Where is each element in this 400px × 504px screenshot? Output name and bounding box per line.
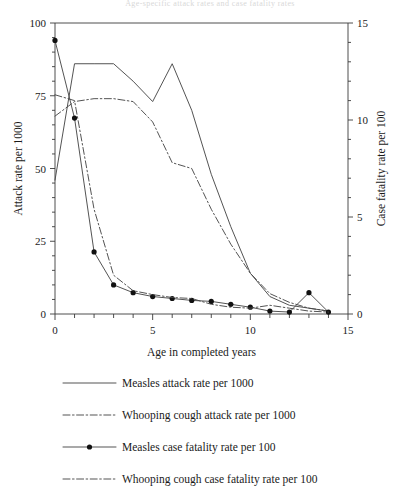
legend-label-2: Measles case fatality rate per 100 [122,441,276,454]
series-marker-2 [91,249,96,254]
legend-marker-2 [87,444,92,449]
chart-canvas: 0255075100051015051015Age in completed y… [0,0,400,504]
legend-label-1: Whooping cough attack rate per 1000 [122,409,296,422]
x-axis-title: Age in completed years [147,346,256,359]
series-marker-2 [170,296,175,301]
series-marker-2 [228,302,233,307]
y-tick-label-right: 10 [357,114,369,126]
y-tick-label-right: 5 [357,211,363,223]
y-tick-label-left: 75 [35,90,47,102]
y-tick-label-right: 0 [357,308,363,320]
series-marker-2 [267,308,272,313]
series-marker-2 [287,309,292,314]
series-marker-2 [72,115,77,120]
x-tick-label: 10 [245,324,257,336]
legend-label-3: Whooping cough case fatality rate per 10… [122,473,318,486]
y-tick-label-right: 15 [357,17,369,29]
series-marker-2 [111,282,116,287]
series-line-2 [55,40,328,312]
x-tick-label: 5 [150,324,156,336]
y-axis-title-right: Case fatality rate per 100 [375,110,388,226]
series-marker-2 [248,305,253,310]
y-axis-title-left: Attack rate per 1000 [12,121,25,215]
chart-figure: Age-specific attack rates and case fatal… [0,0,400,504]
series-line-3 [55,95,328,312]
x-tick-label: 15 [343,324,355,336]
y-tick-label-left: 0 [41,308,47,320]
series-marker-2 [306,290,311,295]
legend-label-0: Measles attack rate per 1000 [122,377,254,390]
series-line-1 [55,99,328,311]
y-tick-label-left: 50 [35,163,47,175]
figure-top-note: Age-specific attack rates and case fatal… [50,0,370,10]
x-tick-label: 0 [52,324,58,336]
series-line-0 [55,64,328,311]
y-tick-label-left: 25 [35,235,47,247]
series-marker-2 [52,38,57,43]
series-marker-2 [209,299,214,304]
y-tick-label-left: 100 [30,17,47,29]
